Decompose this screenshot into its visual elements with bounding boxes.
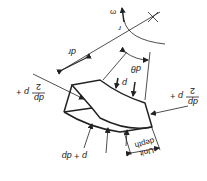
fluid-element-diagram: ω r dr dθ p dp 2 p + dp 2 p + p + dp: [0, 0, 207, 181]
dtheta-ray-1: [103, 52, 127, 80]
left-pressure-label: dp 2 p +: [16, 82, 45, 103]
unit-depth-label: Unit depth: [134, 136, 158, 159]
svg-text:2: 2: [36, 82, 41, 92]
bottom-arrow-1: [84, 124, 92, 148]
center-cross: [148, 12, 158, 22]
dtheta-ray-2: [145, 52, 150, 100]
dtheta-arc: [125, 52, 148, 60]
p-arrow-1: [116, 78, 118, 88]
bottom-arrow-2: [106, 128, 108, 153]
omega-arrow: [122, 8, 124, 22]
p-plus-dp-label: p + dp: [62, 151, 88, 161]
dr-label: dr: [67, 47, 76, 57]
svg-text:dp: dp: [188, 97, 198, 107]
svg-text:p +: p +: [16, 87, 30, 97]
dtheta-label: dθ: [131, 64, 141, 74]
fluid-element: [64, 80, 152, 132]
unit-depth-dim-1: [124, 132, 131, 155]
p-label: p: [122, 78, 128, 88]
radius-line: [62, 12, 160, 70]
right-pressure-label: dp 2 p +: [170, 86, 199, 107]
svg-text:2: 2: [190, 86, 195, 96]
right-pressure-arrow: [151, 106, 188, 114]
rotation-arc: [124, 20, 165, 44]
p-arrow-2: [133, 82, 135, 96]
omega-label: ω: [110, 7, 116, 16]
r-label: r: [118, 24, 121, 33]
svg-text:dp: dp: [34, 93, 44, 103]
svg-text:p +: p +: [170, 91, 184, 101]
